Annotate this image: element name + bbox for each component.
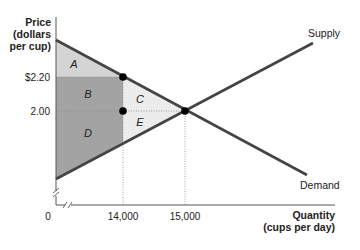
x-tick-15000: 15,000 (170, 211, 201, 222)
region-a-label: A (69, 58, 77, 70)
quota-market-chart: A B C D E Price (dollars per cup) $2.20 … (0, 0, 360, 250)
demand-label: Demand (300, 179, 340, 191)
region-d (56, 111, 123, 179)
x-tick-0: 0 (45, 211, 51, 222)
region-d-label: D (84, 127, 92, 139)
x-axis-title-line1: Quantity (292, 209, 335, 221)
region-b-label: B (84, 88, 91, 100)
region-e-label: E (136, 116, 144, 128)
y-axis-title-line2: (dollars (13, 28, 51, 40)
y-tick-200: 2.00 (31, 106, 51, 117)
y-tick-220: $2.20 (25, 72, 50, 83)
point-quota-price (119, 73, 127, 81)
x-tick-14000: 14,000 (108, 211, 139, 222)
y-axis-title-line1: Price (25, 16, 51, 28)
region-c-label: C (136, 93, 144, 105)
point-quota-supply-price (119, 107, 127, 115)
x-axis-title-line2: (cups per day) (263, 221, 335, 233)
supply-label: Supply (308, 27, 341, 39)
point-equilibrium (181, 107, 189, 115)
y-axis-title-line3: per cup) (10, 40, 51, 52)
